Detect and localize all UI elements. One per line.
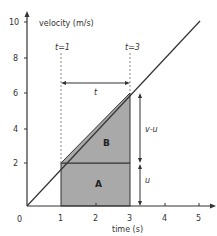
t1-label: t=1 [55, 43, 70, 52]
v-minus-u-label: v-u [145, 125, 158, 134]
region-b [61, 93, 130, 163]
t3-label: t=3 [125, 43, 140, 52]
y-axis-title: velocity (m/s) [39, 19, 94, 28]
arrow-up-icon [138, 93, 142, 98]
x-tick-label: 4 [162, 214, 167, 223]
x-axis-arrow-icon [210, 204, 216, 209]
arrow-down-icon [138, 201, 142, 206]
velocity-time-graph: 2 4 6 8 10 0 1 2 3 4 5 velocity (m/s) ti… [0, 0, 217, 236]
x-tick-label: 1 [58, 214, 63, 223]
origin-label: 0 [17, 215, 22, 224]
region-b-label: B [103, 138, 110, 148]
y-tick-label: 2 [13, 159, 18, 168]
arrow-right-icon [125, 81, 130, 85]
x-axis-title: time (s) [112, 225, 143, 234]
y-tick-label: 10 [9, 18, 19, 27]
u-label: u [145, 176, 150, 185]
x-tick-label: 3 [127, 214, 132, 223]
x-tick-label: 2 [93, 214, 98, 223]
y-tick-label: 8 [13, 54, 18, 63]
arrow-up-icon [138, 164, 142, 169]
region-a-label: A [95, 179, 102, 189]
y-tick-label: 4 [13, 125, 18, 134]
x-tick-label: 5 [196, 214, 201, 223]
arrow-down-icon [138, 158, 142, 163]
y-axis-arrow-icon [25, 11, 30, 17]
arrow-left-icon [61, 81, 66, 85]
y-tick-label: 6 [13, 89, 18, 98]
interval-label: t [94, 88, 98, 97]
